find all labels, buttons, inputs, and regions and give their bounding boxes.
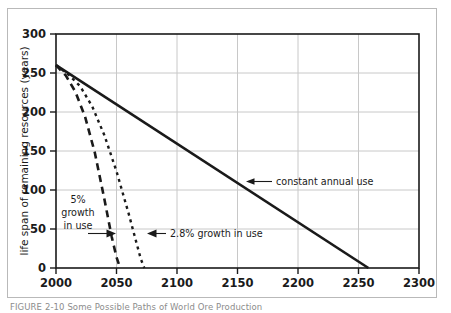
arrow-left-icon-2 (147, 230, 157, 238)
ytick-label-0: 0 (38, 261, 46, 275)
xtick-label-2050: 2050 (100, 276, 132, 290)
xtick-label-2300: 2300 (403, 276, 435, 290)
y-axis-title: life span of remaining resources (years) (18, 46, 30, 255)
xtick-label-2200: 2200 (282, 276, 314, 290)
series-5-percent-growth (56, 65, 120, 268)
x-tick-labels: 2000 2050 2100 2150 2200 2250 2300 (40, 276, 435, 290)
xtick-label-2250: 2250 (342, 276, 374, 290)
figure-caption: FIGURE 2-10 Some Possible Paths of World… (10, 302, 440, 312)
xtick-label-2100: 2100 (161, 276, 193, 290)
series-2-8-percent-growth (56, 65, 144, 268)
chart-svg: 300 250 200 150 100 50 0 2000 2050 2100 … (0, 0, 451, 313)
arrow-left-icon (246, 178, 255, 185)
ytick-label-50: 50 (30, 222, 46, 236)
annotation-label-5-percent-line2: growth (61, 207, 94, 218)
annotation-label-5-percent-line1: 5% (70, 194, 85, 205)
xtick-label-2000: 2000 (40, 276, 72, 290)
xtick-label-2150: 2150 (221, 276, 253, 290)
annotation-label-2-8-percent-growth: 2.8% growth in use (170, 228, 263, 239)
figure-container: 300 250 200 150 100 50 0 2000 2050 2100 … (0, 0, 451, 313)
annotation-label-5-percent-line3: in use (64, 220, 93, 231)
annotation-2-8-percent-growth: 2.8% growth in use (147, 228, 263, 239)
ytick-label-300: 300 (22, 27, 46, 41)
annotation-constant-annual-use: constant annual use (246, 176, 374, 187)
annotation-label-constant-annual-use: constant annual use (276, 176, 374, 187)
